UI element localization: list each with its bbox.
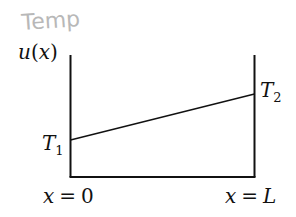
- temperature-profile-line: [71, 94, 255, 140]
- left-boundary-label: T1: [42, 131, 64, 158]
- temperature-profile-diagram: Temp u(x) T1 T2 x=0 x=L: [0, 0, 296, 217]
- y-axis-label: u(x): [18, 40, 58, 64]
- handwritten-note: Temp: [20, 6, 81, 35]
- left-position-label: x=0: [43, 184, 94, 208]
- right-boundary-label: T2: [260, 78, 282, 105]
- right-position-label: x=L: [225, 184, 276, 208]
